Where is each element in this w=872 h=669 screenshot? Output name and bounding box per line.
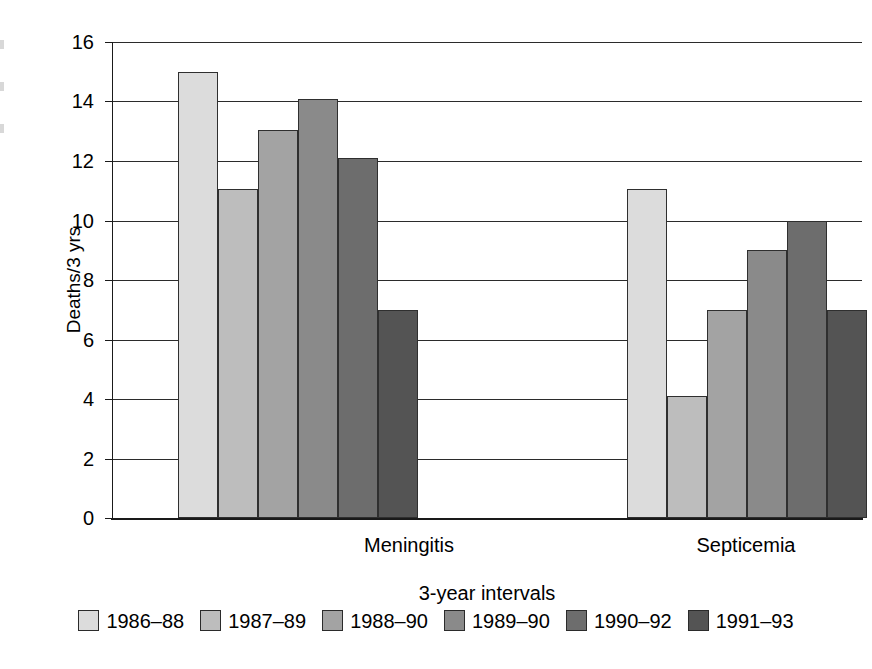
y-tick-8: 8 [105,280,113,281]
legend-label: 1990–92 [594,611,672,631]
legend-item[interactable]: 1987–89 [200,610,306,631]
y-axis-title: Deaths/3 yrs [63,227,85,334]
legend-item[interactable]: 1991–93 [688,610,794,631]
y-tick-2: 2 [105,459,113,460]
bar-meningitis-1989-90 [298,99,338,518]
y-tick-6: 6 [105,340,113,341]
bar-septicemia-1987-89 [667,396,707,518]
bar-meningitis-1987-89 [218,189,258,518]
plot-area: 16 14 12 10 8 6 4 2 0 [112,42,862,518]
bar-meningitis-1988-90 [258,130,298,518]
bar-meningitis-1990-92 [338,158,378,518]
legend-swatch-icon [78,610,99,631]
legend: 1986–881987–891988–901989–901990–921991–… [0,610,872,631]
y-tick-label-0: 0 [83,508,94,528]
y-tick-10: 10 [105,221,113,222]
bar-septicemia-1990-92 [787,221,827,519]
y-tick-label-16: 16 [72,32,94,52]
legend-item[interactable]: 1990–92 [566,610,672,631]
bar-septicemia-1989-90 [747,250,787,518]
legend-label: 1989–90 [472,611,550,631]
y-tick-16: 16 [105,42,113,43]
y-tick-label-12: 12 [72,151,94,171]
y-tick-4: 4 [105,399,113,400]
gridline-14 [112,101,862,102]
x-axis-title: 3-year intervals [419,582,556,605]
bar-meningitis-1986-88 [178,72,218,518]
legend-item[interactable]: 1989–90 [444,610,550,631]
y-tick-label-2: 2 [83,449,94,469]
gridline-12 [112,161,862,162]
x-axis-line [111,518,863,520]
page-margin-artifact [0,40,6,160]
legend-item[interactable]: 1988–90 [322,610,428,631]
legend-swatch-icon [566,610,587,631]
legend-label: 1987–89 [228,611,306,631]
category-label-septicemia: Septicemia [697,534,796,557]
y-tick-label-14: 14 [72,91,94,111]
y-tick-12: 12 [105,161,113,162]
legend-item[interactable]: 1986–88 [78,610,184,631]
category-label-meningitis: Meningitis [364,534,454,557]
y-tick-0: 0 [105,518,113,519]
legend-label: 1986–88 [106,611,184,631]
bar-septicemia-1991-93 [827,310,867,518]
legend-swatch-icon [200,610,221,631]
legend-swatch-icon [688,610,709,631]
legend-label: 1988–90 [350,611,428,631]
bar-septicemia-1986-88 [627,189,667,518]
legend-swatch-icon [322,610,343,631]
legend-swatch-icon [444,610,465,631]
bar-chart-figure: 16 14 12 10 8 6 4 2 0 [0,0,872,669]
gridline-16 [112,42,862,43]
legend-label: 1991–93 [716,611,794,631]
bar-meningitis-1991-93 [378,310,418,518]
bar-septicemia-1988-90 [707,310,747,518]
y-tick-14: 14 [105,101,113,102]
y-tick-label-4: 4 [83,389,94,409]
